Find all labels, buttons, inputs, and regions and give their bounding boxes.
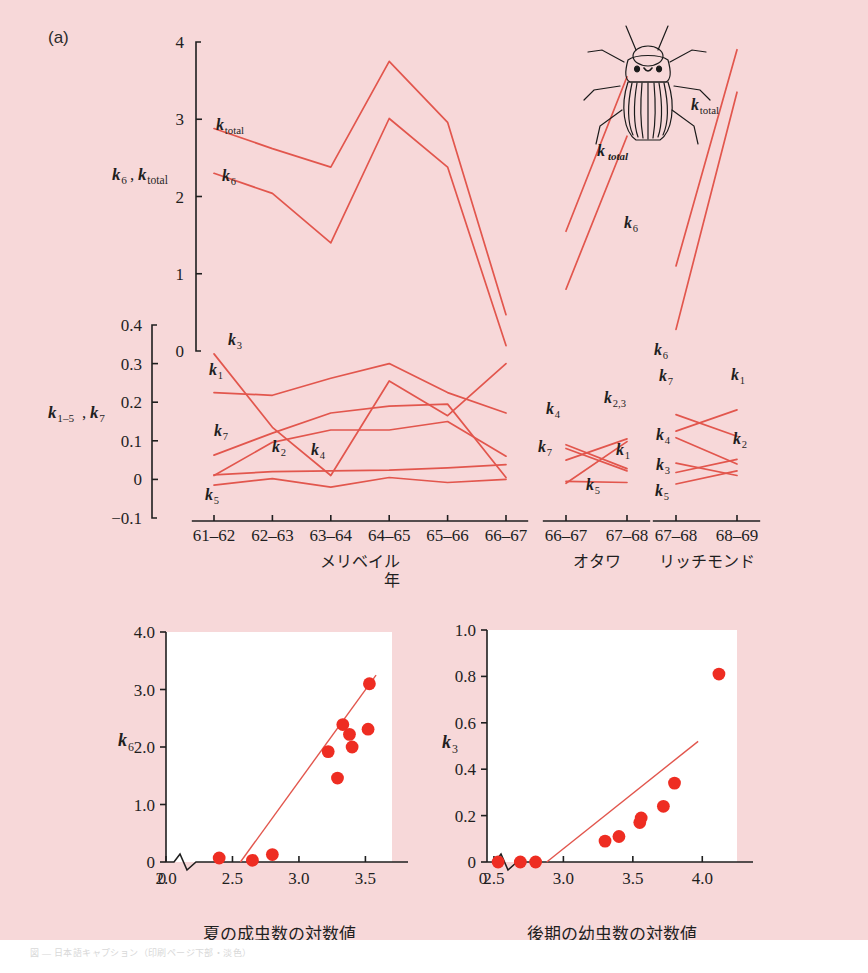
series-label-k3: k3 (656, 456, 670, 476)
svg-text:2: 2 (281, 447, 286, 458)
y-tick-upper: 2 (176, 188, 185, 207)
data-point (514, 856, 527, 869)
svg-text:k: k (659, 367, 667, 384)
x-tick-label: 62–63 (251, 526, 294, 545)
svg-text:6: 6 (663, 350, 668, 361)
data-point (363, 677, 376, 690)
x-tick-label: 63–64 (310, 526, 353, 545)
k-label-total: ktotal (138, 165, 168, 187)
series-label-k5: k5 (655, 482, 669, 502)
series-label-ktotal: ktotal (216, 116, 244, 136)
series-label-k5: k5 (586, 476, 600, 496)
svg-text:,: , (82, 403, 86, 422)
y-tick-lower: 0.1 (121, 432, 142, 451)
y-tick-lower: 0 (134, 470, 143, 489)
y-axis-upper: 01234 (176, 33, 203, 361)
series-label-k2: k2 (272, 438, 286, 458)
svg-text:k: k (138, 165, 147, 184)
svg-text:2: 2 (742, 439, 747, 450)
y-tick-lower: 0.3 (121, 355, 142, 374)
y-tick: 0 (147, 853, 156, 872)
svg-text:k: k (214, 422, 222, 439)
data-point (213, 852, 226, 865)
data-point (713, 668, 726, 681)
svg-text:k: k (656, 456, 664, 473)
x-axis-1: 66–6767–68オタワ (543, 515, 650, 571)
svg-text:k: k (656, 426, 664, 443)
x-tick: 3.5 (355, 869, 376, 888)
x-tick-label: 68–69 (716, 526, 759, 545)
k-label-1–5: k1–5 (48, 403, 75, 424)
series-label-k6: k6 (654, 341, 668, 361)
svg-text:1: 1 (740, 375, 745, 386)
x-axis-0: 61–6262–6363–6464–6565–6666–67メリベイル (192, 515, 528, 571)
y-tick-lower: 0.2 (121, 393, 142, 412)
data-point (529, 856, 542, 869)
series-label-k6: k6 (222, 167, 236, 187)
svg-text:k: k (604, 389, 612, 406)
caption-strip: 図 ― 日本語キャプション（印刷ページ下部・淡色） (0, 940, 868, 973)
svg-text:k: k (112, 165, 121, 184)
x-tick: 3.0 (288, 869, 309, 888)
data-point (613, 830, 626, 843)
y-axis-label: k6 (118, 730, 134, 754)
svg-text:k: k (90, 403, 99, 422)
svg-text:5: 5 (664, 491, 669, 502)
x-tick: 2.5 (222, 869, 243, 888)
y-axis-lower: −0.100.10.20.30.4 (111, 316, 158, 528)
svg-text:k: k (733, 430, 741, 447)
y-tick-upper: 3 (176, 110, 185, 129)
data-point (599, 835, 612, 848)
svg-text:k: k (655, 482, 663, 499)
svg-text:6: 6 (633, 223, 638, 234)
series-label-k7: k7 (538, 438, 552, 458)
svg-text:total: total (147, 174, 168, 187)
data-point (346, 741, 359, 754)
series-label-k3: k3 (228, 331, 242, 351)
svg-text:2,3: 2,3 (613, 398, 626, 409)
svg-text:5: 5 (214, 495, 219, 506)
y-tick: 0 (468, 853, 477, 872)
svg-text:4: 4 (320, 450, 326, 461)
series-group-a-merivale (214, 61, 506, 487)
series-label-k4: k4 (656, 426, 671, 446)
y-tick: 4.0 (134, 623, 155, 642)
y-tick: 0.8 (455, 667, 476, 686)
series-label-k6: k6 (624, 214, 638, 234)
svg-text:k: k (597, 142, 605, 159)
x-tick-label: 66–67 (545, 526, 588, 545)
line-k3 (214, 354, 506, 476)
line-k5 (566, 481, 627, 482)
svg-text:k: k (311, 441, 319, 458)
svg-text:3: 3 (237, 340, 242, 351)
line-k7 (676, 415, 737, 437)
y-tick-lower: 0.4 (121, 316, 143, 335)
y-tick-lower: −0.1 (111, 509, 142, 528)
svg-text:7: 7 (547, 447, 552, 458)
svg-text:k: k (624, 214, 632, 231)
series-label-k1: k1 (731, 366, 745, 386)
svg-text:k: k (654, 341, 662, 358)
x-tick-label: 66–67 (485, 526, 528, 545)
y-tick: 3.0 (134, 681, 155, 700)
data-point (668, 777, 681, 790)
line-k1 (214, 364, 506, 413)
site-name: メリベイル (320, 552, 400, 571)
data-point (266, 848, 279, 861)
x-tick-label: 67–68 (655, 526, 698, 545)
svg-text:k: k (442, 732, 451, 752)
svg-text:k: k (216, 116, 224, 133)
svg-text:4: 4 (665, 435, 671, 446)
k-label-7: k7 (90, 403, 105, 424)
line-k4 (214, 465, 506, 475)
y-tick: 0.2 (455, 807, 476, 826)
x-tick-label: 64–65 (368, 526, 411, 545)
data-point (362, 723, 375, 736)
svg-text:1–5: 1–5 (57, 412, 74, 424)
svg-text:k: k (272, 438, 280, 455)
data-point (635, 812, 648, 825)
x-tick-label: 65–66 (426, 526, 469, 545)
svg-text:total: total (225, 124, 244, 136)
svg-text:6: 6 (121, 174, 127, 186)
y-tick: 0.4 (455, 760, 477, 779)
